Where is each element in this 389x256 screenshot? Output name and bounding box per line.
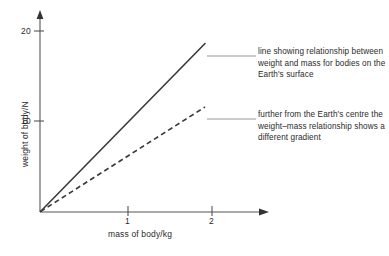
y-axis-title: weight of body/N — [20, 101, 30, 167]
annotation-solid-line: line showing relationship between weight… — [258, 46, 386, 81]
weight-mass-graph-figure: 20 10 1 2 weight of body/N mass of body/… — [0, 0, 389, 256]
x-tick-label-2: 2 — [209, 216, 214, 226]
y-tick-label-20: 20 — [21, 26, 31, 36]
x-axis-arrowhead-icon — [259, 208, 269, 215]
x-axis-title: mass of body/kg — [108, 229, 172, 239]
series-line-dashed — [41, 107, 206, 212]
series-line-solid — [41, 44, 206, 212]
annotation-dashed-line: further from the Earth's centre the weig… — [258, 109, 386, 144]
x-tick-label-1: 1 — [125, 216, 130, 226]
y-axis-arrowhead-icon — [37, 10, 44, 19]
